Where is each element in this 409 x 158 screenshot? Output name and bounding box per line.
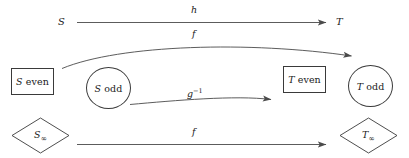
math-diagram: S T S even S odd T even T odd S∞ T∞ h f … (0, 0, 409, 158)
arrow-f-bottom-label: f (192, 126, 196, 137)
node-t-infty-label: T∞ (362, 129, 375, 143)
node-t-infty: T∞ (340, 126, 397, 145)
node-s-infty: S∞ (12, 126, 69, 145)
node-s-infty-label: S∞ (34, 129, 47, 143)
arrow-g-inverse-label: g−1 (187, 87, 203, 99)
node-s-odd-label: S odd (95, 83, 123, 94)
node-s-even-label: S even (16, 76, 49, 87)
arrow-h-label: h (191, 4, 197, 15)
arrow-f-top-label: f (192, 28, 196, 39)
node-s-even: S even (11, 68, 54, 95)
node-t-odd: T odd (348, 65, 393, 107)
node-t-even: T even (283, 66, 326, 93)
node-s-odd: S odd (86, 67, 131, 109)
object-label-t-top: T (336, 16, 343, 27)
node-t-even-label: T even (288, 74, 321, 85)
object-label-s-top: S (58, 16, 65, 27)
node-t-odd-label: T odd (357, 81, 385, 92)
